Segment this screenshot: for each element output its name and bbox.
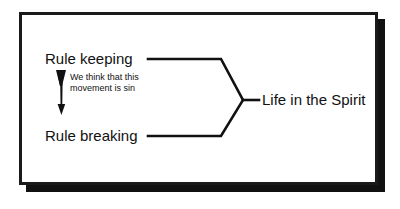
annotation-line-2: movement is sin bbox=[70, 83, 139, 94]
node-label-life-in-the-spirit: Life in the Spirit bbox=[262, 91, 365, 108]
connector-rule-keeping bbox=[148, 59, 243, 100]
diagram-canvas: Rule keeping Rule breaking Life in the S… bbox=[0, 0, 400, 209]
annotation-text: We think that this movement is sin bbox=[70, 72, 139, 94]
down-arrow-icon bbox=[56, 70, 66, 115]
node-label-rule-breaking: Rule breaking bbox=[45, 127, 138, 144]
connector-rule-breaking bbox=[148, 100, 243, 136]
node-label-rule-keeping: Rule keeping bbox=[45, 50, 133, 67]
annotation-line-1: We think that this bbox=[70, 72, 139, 82]
